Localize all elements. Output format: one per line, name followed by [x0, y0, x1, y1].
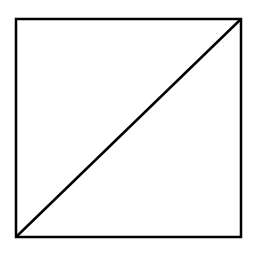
diagonal-line	[16, 19, 241, 237]
diagram-canvas	[0, 0, 254, 253]
